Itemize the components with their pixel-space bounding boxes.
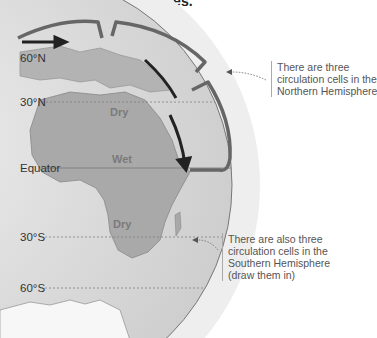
- callout-line: Southern Hemisphere: [228, 257, 330, 269]
- callout-southern-hemisphere: There are also three circulation cells i…: [222, 233, 330, 281]
- lat-label-equator: Equator: [20, 162, 60, 174]
- lat-label-60s: 60°S: [20, 282, 45, 294]
- lat-label-60n: 60°N: [20, 52, 46, 64]
- region-label-dry-north: Dry: [110, 106, 128, 118]
- callout-line: Northern Hemisphere: [277, 85, 377, 97]
- north-callout-leader: [232, 72, 266, 80]
- lat-label-30n: 30°N: [20, 96, 46, 108]
- antarctica-landmass: [0, 300, 130, 338]
- region-label-wet: Wet: [112, 153, 132, 165]
- callout-northern-hemisphere: There are three circulation cells in the…: [271, 61, 377, 97]
- callout-line: There are also three: [228, 233, 330, 245]
- lat-label-30s: 30°S: [20, 231, 45, 243]
- callout-line: There are three: [277, 61, 377, 73]
- callout-line: circulation cells in the: [228, 245, 330, 257]
- callout-line: circulation cells in the: [277, 73, 377, 85]
- region-label-dry-south: Dry: [113, 218, 131, 230]
- callout-line: (draw them in): [228, 269, 330, 281]
